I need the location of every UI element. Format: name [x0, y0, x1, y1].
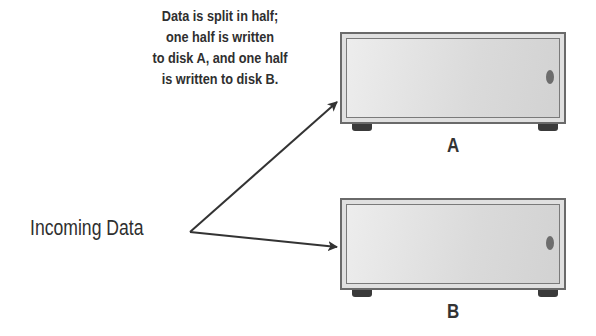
disk-foot	[538, 290, 558, 297]
arrow-to-disk-b	[190, 232, 337, 247]
disk-a-label: A	[447, 134, 459, 157]
disk-foot	[538, 124, 558, 131]
disk-b-label: B	[447, 300, 459, 323]
disk-b-icon	[340, 198, 566, 290]
disk-foot	[352, 290, 372, 297]
disk-foot	[352, 124, 372, 131]
disk-led-icon	[546, 70, 554, 84]
disk-a-icon	[340, 32, 566, 124]
arrow-to-disk-a	[190, 102, 337, 232]
disk-led-icon	[546, 236, 554, 250]
